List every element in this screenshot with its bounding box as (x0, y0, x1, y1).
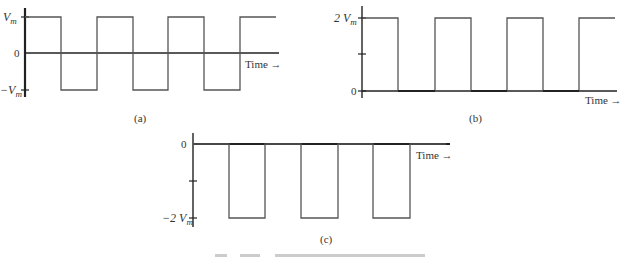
chart-b: 2 Vm 0 Time → (b) (334, 6, 621, 125)
chart-a-caption: (a) (134, 112, 147, 125)
chart-c: 0 −2 Vm Time → (c) (162, 133, 453, 246)
chart-c-x-label: Time → (416, 149, 453, 161)
chart-b-waveform (363, 18, 615, 91)
chart-b-caption: (b) (469, 112, 482, 125)
chart-c-label-zero: 0 (181, 138, 187, 150)
chart-a-x-label: Time → (245, 58, 282, 70)
chart-c-caption: (c) (320, 233, 333, 246)
chart-b-label-zero: 0 (351, 85, 357, 97)
chart-b-x-label: Time → (585, 94, 621, 106)
chart-b-label-2vm: 2 Vm (334, 11, 357, 27)
chart-c-waveform (193, 144, 446, 218)
chart-a-label-neg-vm: −Vm (0, 83, 22, 99)
chart-c-label-neg-2vm: −2 Vm (162, 211, 193, 227)
chart-a-label-zero: 0 (14, 47, 20, 59)
waveform-figure: Vm 0 −Vm Time → (a) 2 Vm 0 Time → (b) 0 … (0, 0, 621, 258)
chart-a: Vm 0 −Vm Time → (a) (0, 8, 282, 125)
faint-caption-fragment (215, 254, 227, 257)
chart-a-label-vm: Vm (3, 10, 17, 26)
